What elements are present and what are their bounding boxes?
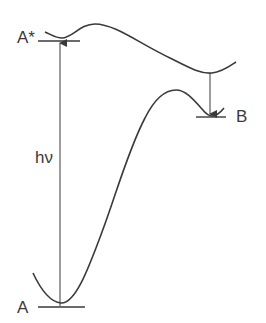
label-excited-state: A* (17, 29, 35, 46)
label-ground-state: A (17, 299, 28, 316)
upper-curve (45, 24, 236, 73)
label-photon: hν (35, 149, 53, 166)
label-product-state: B (236, 108, 247, 125)
lower-curve (33, 90, 224, 303)
energy-diagram: A* hν B A (0, 0, 266, 323)
